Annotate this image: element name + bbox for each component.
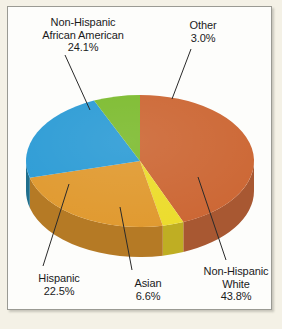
- label-line-1: Other: [167, 19, 239, 32]
- label-line-1: Hispanic: [12, 272, 106, 285]
- chart-frame: Non-Hispanic African American 24.1% Othe…: [7, 6, 272, 310]
- slice-label-asian: Asian 6.6%: [112, 277, 184, 302]
- figure-page: Non-Hispanic African American 24.1% Othe…: [0, 0, 282, 329]
- pie-top-sheen: [26, 95, 254, 227]
- label-value: 22.5%: [12, 285, 106, 298]
- slice-label-hispanic: Hispanic 22.5%: [12, 272, 106, 297]
- label-value: 24.1%: [18, 41, 148, 54]
- label-line-2: White: [184, 278, 272, 291]
- label-value: 3.0%: [167, 32, 239, 45]
- slice-label-other: Other 3.0%: [167, 19, 239, 44]
- leader-line-african-american: [65, 55, 90, 110]
- slice-label-nonhispanic-white: Non-Hispanic White 43.8%: [184, 265, 272, 303]
- label-line-1: Non-Hispanic: [184, 265, 272, 278]
- leader-line-other: [172, 49, 191, 99]
- label-line-2: African American: [18, 29, 148, 42]
- slice-label-nonhispanic-african-american: Non-Hispanic African American 24.1%: [18, 16, 148, 54]
- label-value: 43.8%: [184, 290, 272, 303]
- label-line-1: Asian: [112, 277, 184, 290]
- side-other: [163, 222, 184, 256]
- label-line-1: Non-Hispanic: [18, 16, 148, 29]
- pie-top-faces: [26, 95, 254, 227]
- label-value: 6.6%: [112, 290, 184, 303]
